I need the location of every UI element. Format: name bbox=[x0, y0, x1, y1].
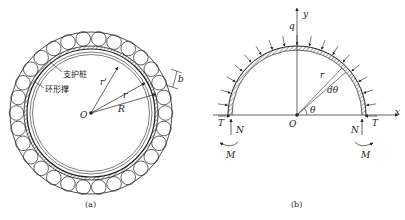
figure-b: x y q O r dθ θ T N M T N M (b) bbox=[213, 8, 400, 209]
pile-circle bbox=[158, 106, 173, 121]
caption-b: (b) bbox=[291, 200, 302, 209]
load-arrow bbox=[256, 46, 261, 55]
theta-label: θ bbox=[310, 105, 316, 115]
load-arrow bbox=[333, 46, 338, 55]
pile-circle bbox=[61, 177, 76, 192]
R-label: R bbox=[117, 104, 125, 114]
load-arrow bbox=[352, 65, 360, 71]
pile-circle bbox=[11, 90, 26, 105]
b-dimension-line bbox=[173, 71, 177, 87]
ring-support-label: 环形撑 bbox=[45, 84, 69, 94]
radius-label-b: r bbox=[320, 70, 325, 80]
M-right-label: M bbox=[360, 150, 371, 160]
load-arrow bbox=[227, 77, 236, 82]
pile-circle bbox=[16, 136, 31, 151]
r-label: r bbox=[123, 90, 128, 100]
load-arrow bbox=[309, 36, 311, 46]
load-arrow bbox=[283, 36, 285, 46]
N-left-label: N bbox=[235, 125, 245, 135]
pile-circle bbox=[61, 35, 76, 50]
dtheta-label: dθ bbox=[327, 85, 339, 95]
origin-label-a: O bbox=[80, 110, 88, 120]
load-q-label: q bbox=[289, 21, 295, 31]
caption-a: (a) bbox=[85, 200, 96, 209]
load-arrow bbox=[235, 65, 243, 71]
pile-circle bbox=[11, 121, 26, 136]
T-left-label: T bbox=[218, 118, 225, 128]
pile-circle bbox=[91, 32, 106, 47]
pile-circle bbox=[76, 32, 91, 47]
pile-circle bbox=[121, 41, 136, 56]
pile-circle bbox=[157, 90, 172, 105]
pile-circle bbox=[9, 106, 24, 121]
b-label: b bbox=[178, 74, 184, 84]
pile-circle bbox=[16, 75, 31, 90]
x-axis-label: x bbox=[395, 107, 400, 117]
load-arrow bbox=[343, 55, 350, 63]
r-prime-label: r' bbox=[100, 77, 107, 87]
pile-circle bbox=[152, 136, 167, 151]
load-arrow bbox=[363, 90, 372, 93]
pile-circle bbox=[107, 177, 122, 192]
origin-label-b: O bbox=[289, 119, 297, 129]
load-arrow bbox=[322, 40, 326, 49]
pile-circle bbox=[152, 75, 167, 90]
pile-circle bbox=[157, 121, 172, 136]
pile-circle bbox=[46, 41, 61, 56]
load-arrow bbox=[269, 40, 273, 49]
load-arrow bbox=[245, 55, 252, 63]
load-arrow bbox=[221, 90, 230, 93]
pile-circle bbox=[107, 35, 122, 50]
M-left-label: M bbox=[225, 150, 236, 160]
pile-circle bbox=[46, 170, 61, 185]
y-axis-label: y bbox=[302, 9, 309, 19]
N-right-label: N bbox=[350, 125, 360, 135]
figure-a: O r' r R b 支护桩 环形撑 (a) bbox=[9, 32, 184, 209]
pile-label: 支护桩 bbox=[63, 69, 87, 79]
load-arrow bbox=[366, 104, 376, 105]
pile-circle bbox=[121, 170, 136, 185]
load-arrow bbox=[218, 104, 228, 105]
pile-circle bbox=[76, 180, 91, 195]
T-right-label: T bbox=[372, 118, 379, 128]
pile-circle bbox=[91, 180, 106, 195]
load-arrow bbox=[359, 77, 368, 82]
diagram-canvas: O r' r R b 支护桩 环形撑 (a) x y q O bbox=[0, 0, 405, 220]
